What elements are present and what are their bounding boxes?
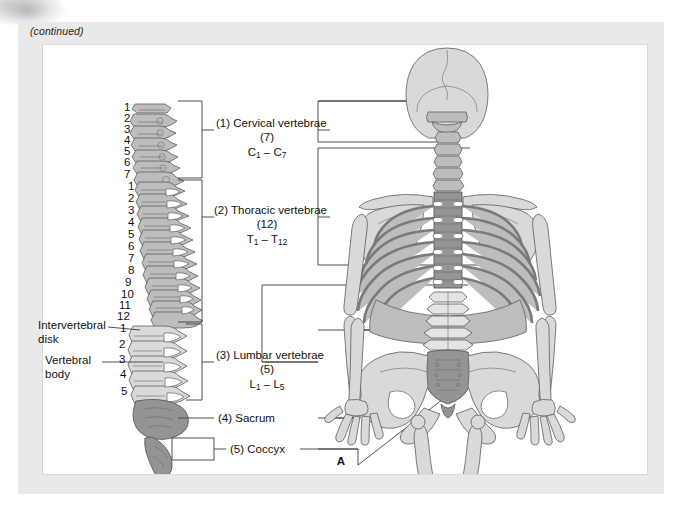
- label-thoracic-vertebrae: (2) Thoracic vertebrae (12) T1 – T12: [214, 203, 320, 247]
- vertebra-number-l3: 3: [119, 352, 125, 366]
- label-vertebral-body-line1: Vertebral: [45, 354, 91, 366]
- label-thoracic-text: (2) Thoracic vertebrae: [214, 204, 327, 216]
- label-lumbar-range: L1 – L5: [250, 378, 285, 390]
- continued-note: (continued): [30, 25, 84, 37]
- vertebra-number-l2: 2: [119, 337, 125, 351]
- vertebra-number-l5: 5: [121, 384, 127, 398]
- label-cervical-range: C1 – C7: [248, 146, 287, 158]
- label-intervertebral-disk-line2: disk: [38, 333, 58, 345]
- vertebra-number-l1: 1: [120, 321, 126, 335]
- label-sacrum: (4) Sacrum: [218, 411, 275, 425]
- label-thoracic-count: (12): [257, 218, 277, 230]
- label-vertebral-body-line2: body: [45, 368, 70, 380]
- scan-smudge-artifact: [0, 0, 68, 24]
- label-cervical-text: (1) Cervical vertebrae: [216, 117, 327, 129]
- label-cervical-count: (7): [260, 131, 274, 143]
- label-thoracic-range: T1 – T12: [247, 233, 288, 245]
- label-cervical-vertebrae: (1) Cervical vertebrae (7) C1 – C7: [216, 116, 318, 160]
- figure-page: (continued) .bl { fill:#d9d9d9; stroke:#…: [0, 0, 682, 511]
- label-intervertebral-disk: Intervertebral disk: [38, 318, 106, 347]
- label-intervertebral-disk-line1: Intervertebral: [38, 319, 106, 331]
- label-lumbar-count: (5): [260, 363, 274, 375]
- label-lumbar-text: (3) Lumbar vertebrae: [216, 349, 324, 361]
- label-lumbar-vertebrae: (3) Lumbar vertebrae (5) L1 – L5: [216, 348, 318, 392]
- vertebra-number-l4: 4: [120, 367, 126, 381]
- label-vertebral-body: Vertebral body: [45, 353, 91, 382]
- panel-letter: A: [0, 455, 682, 467]
